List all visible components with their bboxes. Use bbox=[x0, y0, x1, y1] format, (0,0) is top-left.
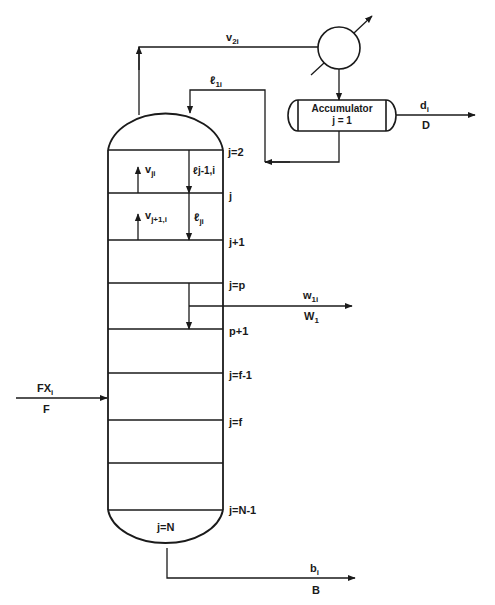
liquid-jm1-label: ℓj-1,i bbox=[193, 166, 215, 176]
bottoms-label: bi bbox=[310, 563, 319, 577]
stage-label-jn1: j=N-1 bbox=[229, 505, 256, 516]
stage-label-jf1: j=f-1 bbox=[229, 370, 252, 381]
stage-label-j: j bbox=[229, 191, 232, 202]
coolant-out bbox=[354, 16, 372, 33]
stage-label-j1: j+1 bbox=[229, 237, 245, 248]
stage-label-p1: p+1 bbox=[229, 326, 248, 337]
distillate-label: di bbox=[420, 100, 429, 114]
vapor-j-label: vji bbox=[145, 164, 156, 178]
trays bbox=[108, 150, 223, 510]
sidestream-total-label: W1 bbox=[304, 311, 319, 325]
feed-label: FXi bbox=[37, 383, 53, 397]
column-shell bbox=[108, 114, 223, 544]
vapor-overhead-label: v2i bbox=[226, 32, 239, 46]
reflux-line bbox=[265, 131, 339, 162]
stage-label-jf: j=f bbox=[229, 417, 242, 428]
condenser-icon bbox=[318, 27, 360, 69]
bottoms-line bbox=[167, 548, 355, 578]
liquid-j-label: ℓji bbox=[194, 212, 204, 226]
coolant-in bbox=[311, 63, 324, 75]
sidestream-label: w1i bbox=[303, 290, 318, 304]
reboiler-label: j=N bbox=[157, 522, 174, 533]
vapor-j1-label: vj+1,i bbox=[145, 210, 167, 224]
stage-label-jp: j=p bbox=[229, 280, 245, 291]
distillate-total-label: D bbox=[422, 120, 430, 131]
accumulator-label: Accumulator j = 1 bbox=[298, 103, 386, 127]
stage-label-j2: j=2 bbox=[228, 147, 244, 158]
reflux-label: ℓ1i bbox=[210, 75, 222, 89]
feed-total-label: F bbox=[43, 404, 50, 415]
bottoms-total-label: B bbox=[312, 585, 320, 596]
